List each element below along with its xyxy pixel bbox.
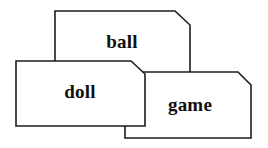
card-doll[interactable]: doll — [16, 61, 145, 126]
card-ball-label: ball — [106, 31, 137, 52]
card-game-label: game — [168, 94, 212, 115]
figure-canvas: ball game doll — [0, 0, 268, 148]
card-doll-label: doll — [64, 81, 95, 102]
cards-diagram: ball game doll — [0, 0, 268, 148]
